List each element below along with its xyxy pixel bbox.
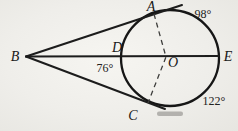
- scan-smudge-artifact: [157, 112, 183, 117]
- geometry-figure: A B C D E O 98° 76° 122°: [0, 0, 238, 131]
- angle-label-arc-CE: 122°: [203, 94, 226, 108]
- point-label-D: D: [111, 40, 122, 55]
- diagram-canvas: A B C D E O 98° 76° 122°: [0, 0, 238, 131]
- dashed-radii-AO-OC: [148, 14, 166, 103]
- point-label-O: O: [168, 55, 178, 70]
- angle-label-arc-AE: 98°: [195, 7, 212, 21]
- tangent-line-BA: [26, 5, 182, 57]
- point-label-A: A: [146, 0, 156, 14]
- secant-line-BDE: [26, 56, 219, 57]
- point-label-B: B: [11, 49, 20, 64]
- tangent-line-BC: [26, 57, 165, 110]
- angle-label-arc-DC: 76°: [97, 61, 114, 75]
- point-label-C: C: [128, 108, 138, 123]
- point-label-E: E: [223, 49, 233, 64]
